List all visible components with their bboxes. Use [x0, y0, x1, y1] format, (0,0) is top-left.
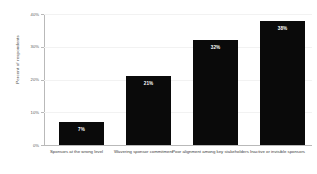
plot-area: 0% 10% 20% 30% 40% 7% 21%	[44, 14, 312, 145]
bar-value-label: 21%	[126, 81, 171, 86]
y-axis-title: Percent of respondents	[15, 10, 20, 110]
bar-chart: Percent of respondents 0% 10% 20% 30% 40…	[0, 0, 317, 174]
tick-mark	[41, 112, 44, 113]
tick-mark	[41, 80, 44, 81]
gridline	[44, 14, 312, 15]
bar-wavering-sponsor-commitment[interactable]: 21%	[126, 76, 171, 145]
y-tick-label-40: 40%	[0, 12, 39, 17]
y-tick-label-10: 10%	[0, 110, 39, 115]
tick-mark	[41, 14, 44, 15]
y-tick-label-20: 20%	[0, 77, 39, 82]
y-tick-label-0: 0%	[0, 143, 39, 148]
tick-mark	[41, 145, 44, 146]
bar-inactive-or-invisible-sponsors[interactable]: 38%	[260, 21, 305, 146]
bar-sponsors-at-the-wrong-level[interactable]: 7%	[59, 122, 104, 145]
bar-value-label: 32%	[193, 45, 238, 50]
tick-mark	[41, 47, 44, 48]
y-tick-label-30: 30%	[0, 44, 39, 49]
bar-poor-alignment-among-key-stakeholders[interactable]: 32%	[193, 40, 238, 145]
bar-value-label: 7%	[59, 127, 104, 132]
x-axis-line	[44, 145, 312, 146]
bar-value-label: 38%	[260, 26, 305, 31]
x-category-label-3: Inactive or invisible sponsors	[228, 149, 317, 155]
